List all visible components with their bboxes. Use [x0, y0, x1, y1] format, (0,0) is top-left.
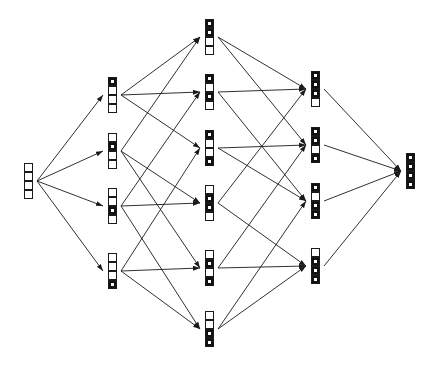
subset-node-n34: [206, 312, 214, 347]
edge-arrow-n34-n134: [218, 201, 306, 329]
cell-dot: [409, 156, 412, 159]
cell-dot: [208, 280, 211, 283]
edge-arrow-n1-n14: [121, 95, 200, 148]
cell-dot: [314, 278, 317, 281]
edge-arrow-n12-n123: [218, 37, 306, 89]
cell-dot: [314, 157, 317, 160]
cell-dot: [208, 160, 211, 163]
subset-node-n2: [109, 134, 117, 169]
empty-cell: [109, 134, 117, 142]
cell-dot: [208, 22, 211, 25]
cell-dot: [111, 145, 114, 148]
subset-node-n14: [206, 131, 214, 166]
lattice-svg: [0, 0, 436, 371]
cell-dot: [208, 341, 211, 344]
empty-cell: [109, 263, 117, 271]
subset-node-n0: [25, 164, 33, 199]
cell-dot: [208, 133, 211, 136]
edge-arrow-n23-n123: [218, 89, 306, 203]
empty-cell: [312, 99, 320, 107]
subset-node-n1234: [407, 154, 415, 189]
cell-dot: [409, 174, 412, 177]
empty-cell: [25, 182, 33, 190]
subset-node-n13: [206, 75, 214, 110]
empty-cell: [109, 189, 117, 197]
edge-arrow-n3-n23: [121, 203, 200, 206]
cell-dot: [314, 204, 317, 207]
empty-cell: [206, 47, 214, 55]
edge-arrow-n124-n1234: [324, 145, 401, 171]
edge-arrow-n2-n12: [121, 37, 200, 151]
empty-cell: [206, 321, 214, 329]
subset-node-n123: [312, 72, 320, 107]
edge-arrow-n0-n2: [37, 151, 103, 181]
cell-dot: [314, 92, 317, 95]
empty-cell: [25, 173, 33, 181]
edge-arrow-n4-n34: [121, 271, 200, 329]
edge-arrow-n4-n24: [121, 268, 200, 271]
empty-cell: [109, 254, 117, 262]
cell-dot: [208, 95, 211, 98]
cell-dot: [208, 262, 211, 265]
empty-cell: [206, 38, 214, 46]
cell-dot: [314, 74, 317, 77]
empty-cell: [25, 191, 33, 199]
empty-cell: [206, 140, 214, 148]
cell-dot: [208, 332, 211, 335]
cell-dot: [314, 213, 317, 216]
cell-dot: [314, 260, 317, 263]
cell-dot: [314, 83, 317, 86]
cell-dot: [409, 183, 412, 186]
empty-cell: [312, 146, 320, 154]
subset-node-n124: [312, 128, 320, 163]
lattice-diagram: [0, 0, 436, 371]
empty-cell: [206, 269, 214, 277]
empty-cell: [109, 198, 117, 206]
edge-arrow-n1-n12: [121, 37, 200, 95]
cell-dot: [208, 197, 211, 200]
edge-arrow-n12-n124: [218, 37, 306, 145]
empty-cell: [206, 84, 214, 92]
edge-arrow-n24-n234: [218, 266, 306, 268]
cell-dot: [111, 80, 114, 83]
empty-cell: [206, 213, 214, 221]
subset-node-n134: [312, 184, 320, 219]
edge-arrow-n0-n3: [37, 181, 103, 206]
subset-node-n1: [109, 78, 117, 113]
empty-cell: [109, 216, 117, 224]
edge-arrow-n34-n234: [218, 266, 306, 329]
subset-node-n24: [206, 251, 214, 286]
cell-dot: [208, 31, 211, 34]
subset-node-n4: [109, 254, 117, 289]
cell-dot: [314, 139, 317, 142]
cell-dot: [111, 209, 114, 212]
cell-dot: [314, 186, 317, 189]
edge-arrow-n234-n1234: [324, 171, 401, 266]
cell-dot: [314, 269, 317, 272]
empty-cell: [206, 251, 214, 259]
empty-cell: [109, 152, 117, 160]
edge-group: [37, 37, 401, 329]
edge-arrow-n0-n4: [37, 181, 103, 271]
empty-cell: [312, 249, 320, 257]
empty-cell: [206, 102, 214, 110]
subset-node-n3: [109, 189, 117, 224]
edge-arrow-n23-n234: [218, 203, 306, 266]
edge-arrow-n4-n14: [121, 148, 200, 271]
cell-dot: [314, 130, 317, 133]
empty-cell: [109, 87, 117, 95]
edge-arrow-n3-n13: [121, 92, 200, 206]
node-group: [25, 20, 415, 347]
cell-dot: [111, 283, 114, 286]
empty-cell: [109, 105, 117, 113]
subset-node-n234: [312, 249, 320, 284]
edge-arrow-n123-n1234: [324, 89, 401, 171]
empty-cell: [25, 164, 33, 172]
subset-node-n23: [206, 186, 214, 221]
empty-cell: [206, 149, 214, 157]
edge-arrow-n2-n23: [121, 151, 200, 203]
cell-dot: [208, 77, 211, 80]
edge-arrow-n24-n124: [218, 145, 306, 268]
empty-cell: [109, 272, 117, 280]
empty-cell: [109, 161, 117, 169]
